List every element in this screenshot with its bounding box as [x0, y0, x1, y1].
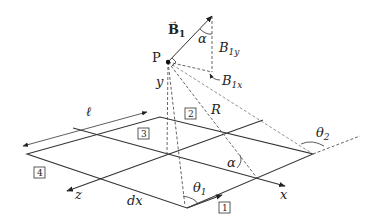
height-line-y — [167, 62, 168, 153]
alpha-bottom-label: α — [227, 155, 236, 170]
square-loop — [27, 117, 313, 208]
B1y-label: B1y — [218, 40, 240, 57]
height-y-label: y — [155, 74, 164, 89]
x-axis-label: x — [280, 187, 288, 202]
B1x-pointer-arrow — [210, 74, 220, 80]
distance-R-label: R — [210, 102, 221, 117]
z-axis-label: z — [74, 187, 82, 202]
segment-box-2: 2 — [185, 108, 196, 119]
segment-box-1: 1 — [219, 202, 230, 213]
vector-arrow-glyph: → — [168, 15, 178, 26]
B1x-label: B1x — [221, 73, 242, 90]
svg-text:2: 2 — [188, 109, 194, 119]
distance-line-R — [168, 62, 257, 178]
svg-text:3: 3 — [141, 129, 147, 139]
dx-label: dx — [127, 193, 143, 208]
theta1-label: θ1 — [193, 180, 207, 197]
side-length-arrow — [23, 112, 147, 146]
alpha-top-label: α — [198, 31, 207, 46]
line-to-corner — [168, 62, 185, 206]
svg-text:1: 1 — [222, 203, 228, 213]
svg-text:4: 4 — [37, 168, 43, 178]
point-P-label: P — [152, 50, 161, 65]
loop-outline — [27, 117, 313, 208]
side-length-label: ℓ — [86, 104, 92, 119]
diagram-canvas: P B1 → α B1y B1x y R ℓ α dx θ1 θ2 x z 1 … — [0, 0, 380, 224]
alpha-arc-bottom — [237, 155, 241, 168]
point-P — [166, 60, 170, 64]
theta2-arc — [301, 142, 324, 146]
segment-box-3: 3 — [138, 128, 149, 139]
theta1-arc — [183, 196, 198, 204]
theta2-label: θ2 — [316, 125, 330, 142]
segment-box-4: 4 — [34, 167, 45, 178]
